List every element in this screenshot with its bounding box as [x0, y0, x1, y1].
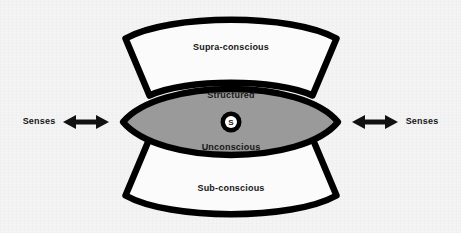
structured-label: Structured — [207, 90, 255, 100]
core-letter-label: S — [228, 118, 234, 127]
diagram-canvas: Supra-conscious Structured Unconscious S… — [0, 0, 461, 233]
senses-left-arrow-icon — [63, 115, 109, 129]
sub-conscious-label: Sub-conscious — [197, 183, 264, 193]
supra-conscious-label: Supra-conscious — [193, 42, 269, 52]
unconscious-label: Unconscious — [202, 142, 261, 152]
senses-left-label: Senses — [23, 116, 56, 126]
consciousness-diagram: Supra-conscious Structured Unconscious S… — [0, 0, 461, 233]
senses-right-label: Senses — [406, 116, 439, 126]
senses-right-arrow-icon — [352, 115, 398, 129]
supra-conscious-region[interactable] — [126, 20, 337, 96]
